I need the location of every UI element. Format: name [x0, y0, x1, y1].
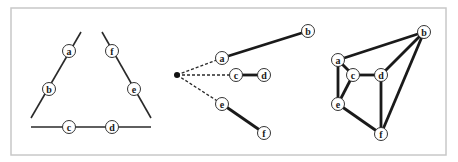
graph-node-a: a — [216, 52, 229, 65]
graph-node-f: f — [375, 128, 388, 141]
node-label: e — [132, 84, 137, 95]
edge — [31, 32, 81, 118]
node-label: a — [67, 46, 72, 57]
triangle-panel: abcdef — [31, 32, 151, 134]
node-label: e — [336, 99, 341, 110]
graph-panel: abcdef — [332, 26, 431, 141]
graph-node-f: f — [258, 127, 271, 140]
graph-node-f: f — [106, 45, 119, 58]
edge — [222, 31, 308, 58]
node-label: d — [109, 122, 115, 133]
node-label: a — [336, 55, 341, 66]
edge — [222, 104, 264, 133]
graph-figure: abcdef abcdef abcdef — [0, 0, 458, 162]
graph-node-b: b — [302, 25, 315, 38]
node-label: c — [351, 70, 356, 81]
graph-node-c: c — [347, 69, 360, 82]
root-node-dot — [174, 72, 180, 78]
node-label: d — [261, 70, 267, 81]
graph-node-d: d — [375, 69, 388, 82]
graph-node-b: b — [418, 26, 431, 39]
edge — [177, 75, 222, 104]
graph-node-b: b — [43, 83, 56, 96]
tree-panel: abcdef — [174, 25, 315, 140]
node-label: c — [67, 122, 72, 133]
node-label: e — [220, 99, 225, 110]
edge — [381, 32, 424, 134]
node-label: c — [234, 70, 239, 81]
node-label: b — [46, 84, 52, 95]
node-label: b — [305, 26, 311, 37]
graph-node-c: c — [230, 69, 243, 82]
graph-node-a: a — [332, 54, 345, 67]
graph-node-d: d — [106, 121, 119, 134]
edge — [338, 104, 381, 134]
node-label: d — [378, 70, 384, 81]
graph-node-d: d — [258, 69, 271, 82]
graph-node-c: c — [63, 121, 76, 134]
graph-node-e: e — [332, 98, 345, 111]
graph-node-a: a — [63, 45, 76, 58]
node-label: b — [421, 27, 427, 38]
edge — [177, 58, 222, 75]
graph-node-e: e — [216, 98, 229, 111]
node-label: a — [220, 53, 225, 64]
graph-node-e: e — [128, 83, 141, 96]
